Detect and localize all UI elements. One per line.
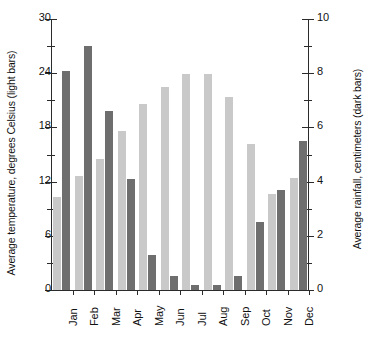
x-axis-tick bbox=[309, 290, 310, 295]
bar-group bbox=[245, 19, 267, 290]
x-axis-month-label: Feb bbox=[88, 307, 100, 326]
temperature-bar bbox=[247, 144, 255, 290]
x-axis-tick bbox=[159, 290, 160, 295]
x-axis-month-label: Sep bbox=[239, 307, 251, 326]
temperature-bar bbox=[161, 87, 169, 290]
x-axis-tick bbox=[116, 290, 117, 295]
bar-group bbox=[159, 19, 181, 290]
y-left-tick-label: 24 bbox=[11, 65, 51, 77]
y-right-tick-label: 4 bbox=[317, 174, 357, 186]
bar-group bbox=[94, 19, 116, 290]
rainfall-bar bbox=[191, 285, 199, 290]
x-axis-month-label: Aug bbox=[217, 307, 229, 326]
y-right-tick-label: 8 bbox=[317, 65, 357, 77]
bar-group bbox=[51, 19, 73, 290]
bar-group bbox=[180, 19, 202, 290]
temperature-bar bbox=[75, 176, 83, 290]
x-axis-tick bbox=[137, 290, 138, 295]
rainfall-bar bbox=[213, 285, 221, 290]
bar-group bbox=[116, 19, 138, 290]
rainfall-bar bbox=[105, 111, 113, 290]
y-right-tick-label: 2 bbox=[317, 228, 357, 240]
rainfall-bar bbox=[234, 276, 242, 290]
temperature-bar bbox=[268, 194, 276, 290]
bar-group bbox=[202, 19, 224, 290]
rainfall-bar bbox=[84, 46, 92, 290]
x-axis-month-label: Oct bbox=[260, 309, 272, 326]
y-left-tick-label: 12 bbox=[11, 174, 51, 186]
rainfall-bar bbox=[170, 276, 178, 290]
x-axis-month-label: Nov bbox=[282, 307, 294, 326]
x-axis-tick bbox=[245, 290, 246, 295]
x-axis-tick bbox=[73, 290, 74, 295]
y-left-tick-label: 0 bbox=[11, 282, 51, 294]
temperature-bar bbox=[204, 74, 212, 290]
y-right-tick-label: 0 bbox=[317, 282, 357, 294]
rainfall-bar bbox=[256, 222, 264, 290]
climate-bar-chart: Average temperature, degrees Celsius (li… bbox=[0, 0, 369, 357]
temperature-bar bbox=[118, 131, 126, 290]
x-axis-month-label: Jun bbox=[174, 309, 186, 326]
rainfall-bar bbox=[277, 190, 285, 290]
rainfall-bar bbox=[62, 71, 70, 291]
rainfall-bar bbox=[299, 141, 307, 290]
x-axis-month-label: Jan bbox=[67, 309, 79, 326]
rainfall-bar bbox=[127, 179, 135, 290]
x-axis-month-label: Apr bbox=[131, 309, 143, 326]
y-left-tick-label: 18 bbox=[11, 119, 51, 131]
x-axis-tick bbox=[288, 290, 289, 295]
bar-group bbox=[266, 19, 288, 290]
bar-group bbox=[288, 19, 310, 290]
x-axis-month-label: Dec bbox=[303, 307, 315, 326]
x-axis-month-label: Jul bbox=[196, 312, 208, 326]
rainfall-bar bbox=[148, 255, 156, 290]
y-left-tick-label: 30 bbox=[11, 11, 51, 23]
y-axis-left-title: Average temperature, degrees Celsius (li… bbox=[5, 48, 17, 278]
bar-group bbox=[73, 19, 95, 290]
bar-group bbox=[137, 19, 159, 290]
y-right-major-tick bbox=[302, 290, 314, 291]
y-left-tick-label: 6 bbox=[11, 228, 51, 240]
temperature-bar bbox=[139, 104, 147, 290]
temperature-bar bbox=[96, 159, 104, 290]
x-axis-month-label: May bbox=[153, 306, 165, 326]
x-axis-tick bbox=[266, 290, 267, 295]
temperature-bar bbox=[290, 178, 298, 290]
y-right-tick-label: 10 bbox=[317, 11, 357, 23]
bar-group bbox=[223, 19, 245, 290]
y-right-tick-label: 6 bbox=[317, 119, 357, 131]
x-axis-month-label: Mar bbox=[110, 307, 122, 326]
temperature-bar bbox=[225, 97, 233, 290]
x-axis-tick bbox=[223, 290, 224, 295]
temperature-bar bbox=[53, 197, 61, 290]
x-axis-tick bbox=[94, 290, 95, 295]
temperature-bar bbox=[182, 74, 190, 290]
x-axis-tick bbox=[180, 290, 181, 295]
plot-area: 0612182430 0246810 JanFebMarAprMayJunJul… bbox=[51, 19, 309, 291]
x-axis-tick bbox=[202, 290, 203, 295]
